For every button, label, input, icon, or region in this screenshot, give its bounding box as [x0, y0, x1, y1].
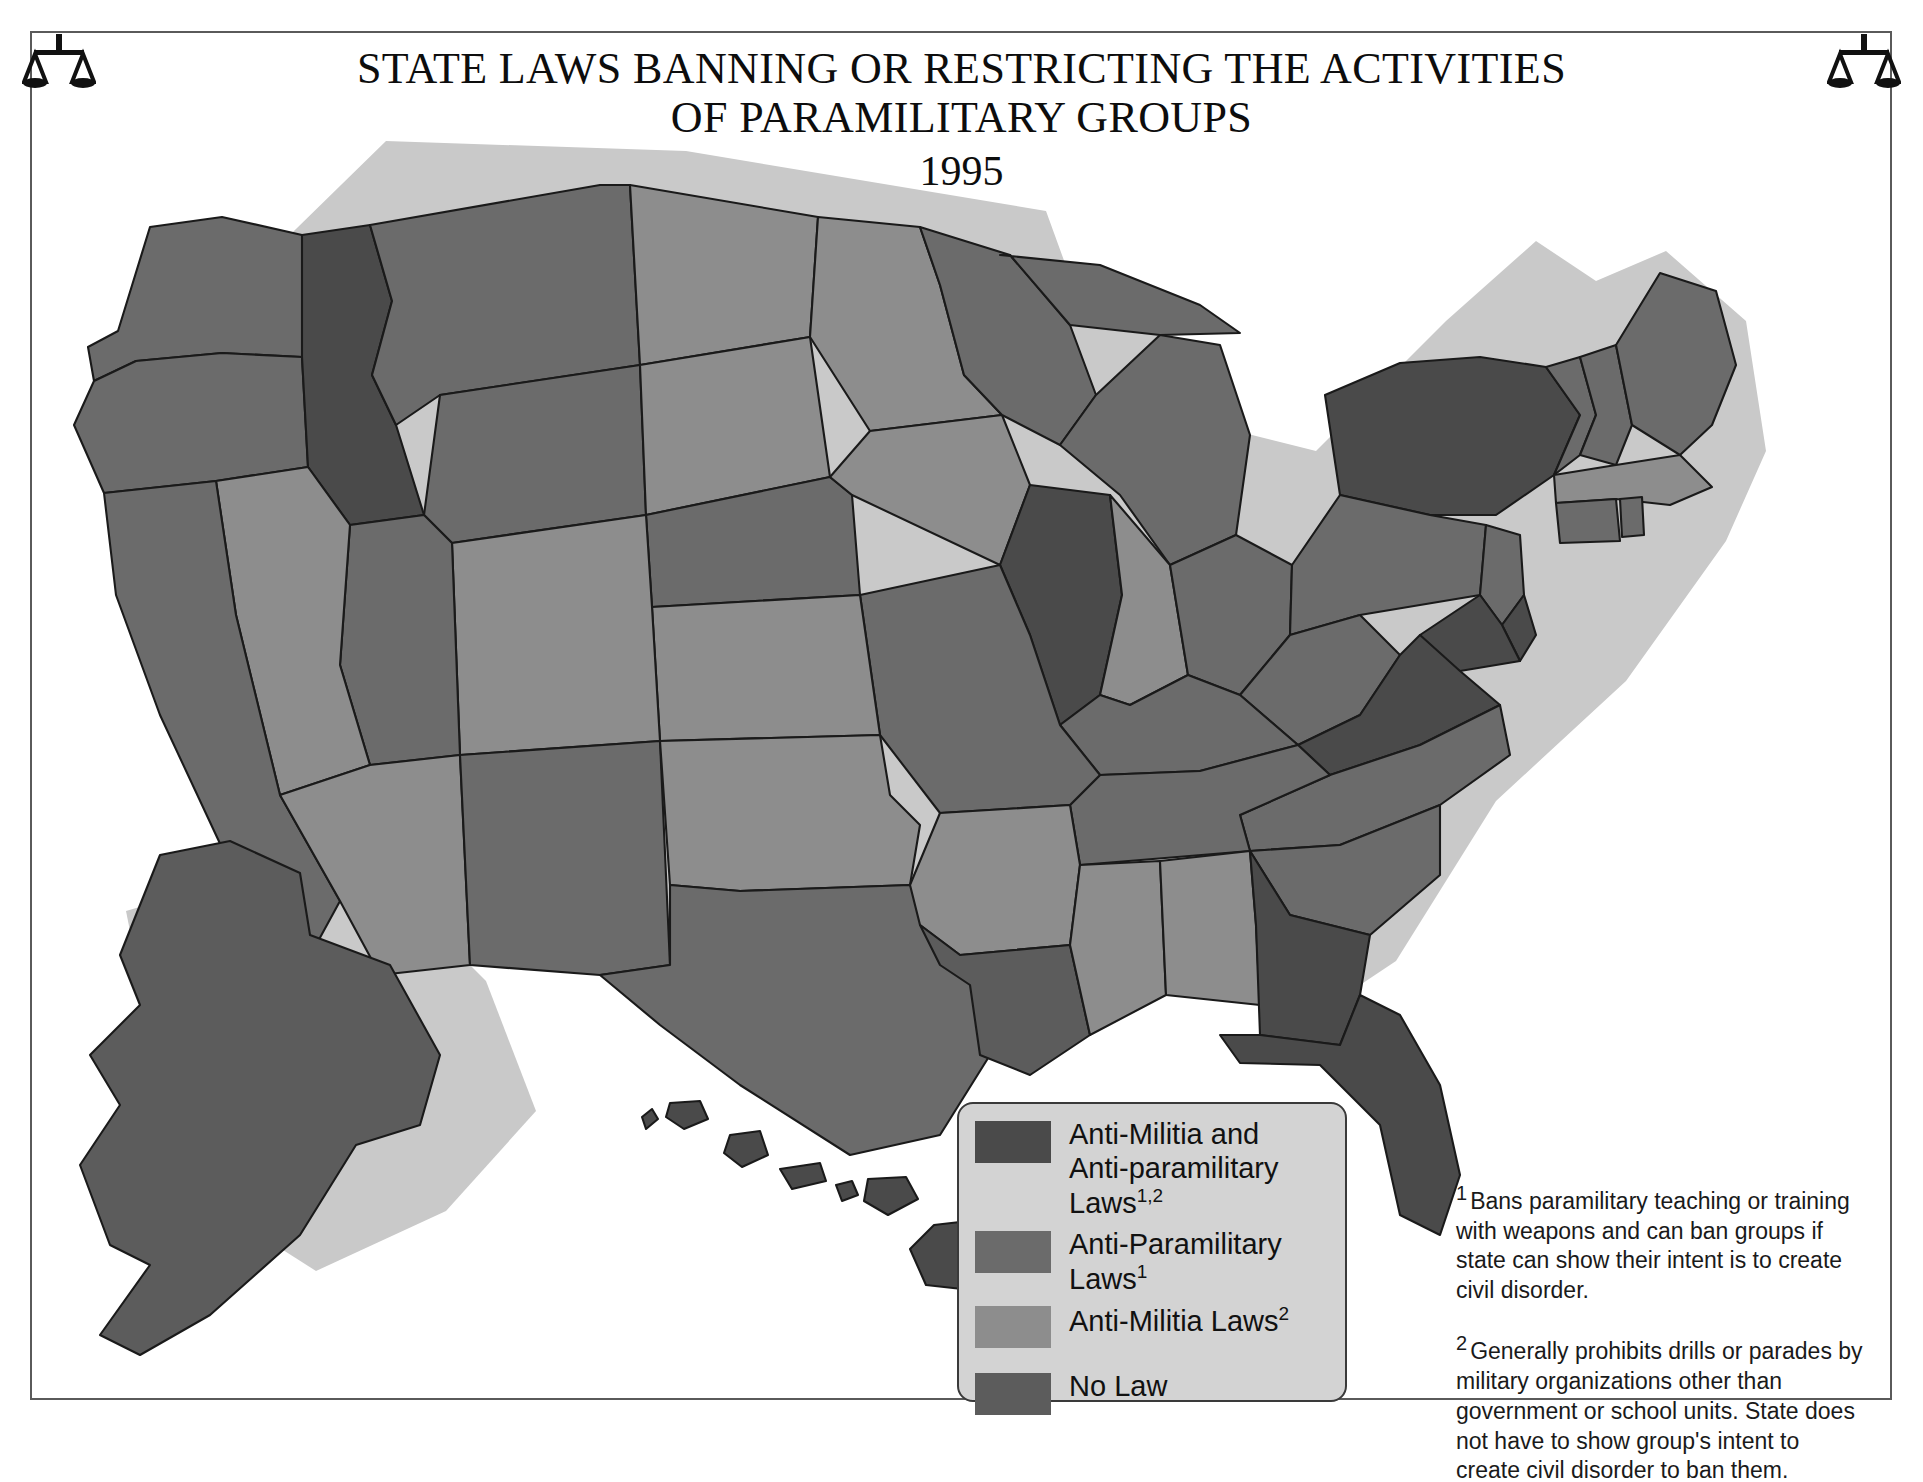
- state-RI[interactable]: [1620, 497, 1644, 537]
- scales-of-justice-icon: [22, 30, 96, 96]
- state-AR[interactable]: [910, 805, 1080, 955]
- footnote-1: 1Bans paramilitary teaching or training …: [1456, 1180, 1866, 1306]
- legend-swatch-anti-militia-and-paramilitary: [975, 1121, 1051, 1163]
- footnote-2: 2Generally prohibits drills or parades b…: [1456, 1330, 1866, 1482]
- scales-of-justice-icon: [1827, 30, 1901, 96]
- legend-item-no-law[interactable]: No Law: [975, 1370, 1335, 1415]
- footnote-2-text: Generally prohibits drills or parades by…: [1456, 1338, 1863, 1482]
- state-OK[interactable]: [660, 735, 920, 891]
- state-MS[interactable]: [1070, 861, 1166, 1035]
- legend-item-anti-paramilitary[interactable]: Anti-Paramilitary Laws1: [975, 1228, 1335, 1297]
- footnote-1-marker: 1: [1456, 1182, 1467, 1204]
- legend-footnotes: 1Bans paramilitary teaching or training …: [1456, 1180, 1866, 1482]
- state-CO[interactable]: [452, 515, 660, 755]
- legend-swatch-anti-militia: [975, 1306, 1051, 1348]
- state-AL[interactable]: [1160, 851, 1260, 1005]
- legend-item-anti-militia-and-paramilitary[interactable]: Anti-Militia and Anti-paramilitary Laws1…: [975, 1118, 1335, 1221]
- map-legend: Anti-Militia and Anti-paramilitary Laws1…: [957, 1102, 1347, 1402]
- footnote-2-marker: 2: [1456, 1332, 1467, 1354]
- legend-label-anti-paramilitary: Anti-Paramilitary Laws1: [1069, 1228, 1282, 1297]
- legend-label-no-law: No Law: [1069, 1370, 1167, 1404]
- state-CT[interactable]: [1556, 499, 1620, 543]
- footnote-1-text: Bans paramilitary teaching or training w…: [1456, 1188, 1850, 1304]
- state-WY[interactable]: [424, 365, 646, 543]
- legend-label-anti-militia-and-paramilitary: Anti-Militia and Anti-paramilitary Laws1…: [1069, 1118, 1335, 1221]
- legend-swatch-no-law: [975, 1373, 1051, 1415]
- state-NM[interactable]: [460, 741, 670, 975]
- state-ND[interactable]: [630, 185, 818, 365]
- legend-swatch-anti-paramilitary: [975, 1231, 1051, 1273]
- legend-label-anti-militia: Anti-Militia Laws2: [1069, 1303, 1289, 1338]
- legend-item-anti-militia[interactable]: Anti-Militia Laws2: [975, 1303, 1335, 1348]
- state-KS[interactable]: [652, 595, 880, 741]
